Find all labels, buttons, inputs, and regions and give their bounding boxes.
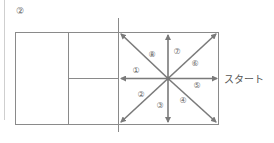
num-6: ⑥ (191, 59, 198, 68)
arrow-4-down-right (168, 79, 216, 123)
start-label: スタート (224, 71, 264, 86)
arrow-8-up-left (121, 34, 168, 79)
num-5: ⑤ (193, 81, 200, 90)
num-1: ① (132, 66, 139, 75)
num-2: ② (137, 90, 144, 99)
center-point (166, 77, 170, 81)
num-4: ④ (179, 96, 186, 105)
arrow-6-up-right (168, 34, 216, 79)
num-8: ⑧ (148, 50, 155, 59)
num-7: ⑦ (173, 47, 180, 56)
num-3: ③ (156, 101, 163, 110)
